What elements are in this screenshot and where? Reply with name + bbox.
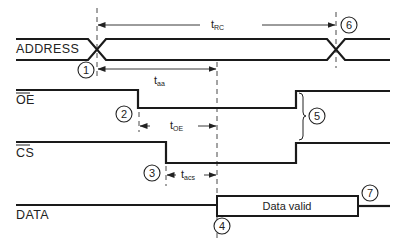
data-signal bbox=[16, 196, 390, 216]
svg-text:2: 2 bbox=[121, 108, 127, 120]
tacs-label: tacs bbox=[181, 168, 195, 181]
svg-text:1: 1 bbox=[83, 64, 89, 76]
svg-text:7: 7 bbox=[367, 187, 373, 199]
marker-3: 3 bbox=[144, 165, 160, 181]
marker-6: 6 bbox=[341, 17, 357, 33]
marker-5: 5 bbox=[309, 108, 325, 124]
oe-label: OE bbox=[16, 93, 35, 107]
marker-7: 7 bbox=[362, 185, 378, 201]
cs-signal bbox=[16, 142, 390, 163]
data-valid-label: Data valid bbox=[263, 200, 312, 212]
cs-label: CS bbox=[16, 146, 34, 160]
trc-label: tRC bbox=[211, 18, 224, 31]
toe-label: tOE bbox=[170, 119, 184, 132]
marker-1: 1 bbox=[78, 62, 94, 78]
svg-text:6: 6 bbox=[346, 19, 352, 31]
data-label: DATA bbox=[16, 208, 49, 222]
svg-text:3: 3 bbox=[149, 167, 155, 179]
address-label: ADDRESS bbox=[16, 42, 79, 56]
taa-label: taa bbox=[154, 74, 165, 87]
marker-4: 4 bbox=[214, 218, 230, 234]
brace-5 bbox=[299, 93, 306, 140]
svg-text:5: 5 bbox=[314, 110, 320, 122]
oe-signal bbox=[16, 90, 390, 108]
svg-text:4: 4 bbox=[219, 220, 225, 232]
marker-2: 2 bbox=[116, 106, 132, 122]
timing-diagram: ADDRESS tRC taa OE tOE CS tacs DATA Data… bbox=[0, 0, 408, 245]
